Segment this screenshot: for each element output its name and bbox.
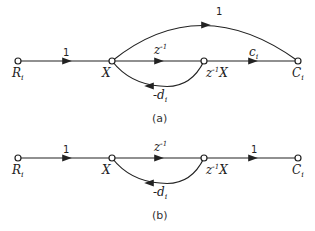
b-node-delayed: z-1X: [206, 164, 228, 176]
b-delay-gain: z-1: [154, 141, 167, 153]
b-feedback-gain: -di: [153, 186, 167, 201]
a-delay-gain: z-1: [154, 44, 167, 56]
a-node-r: Ri: [12, 67, 24, 82]
a-output-gain: ci: [249, 46, 258, 61]
caption-b: (b): [152, 209, 168, 222]
b-node-r: Ri: [12, 164, 24, 179]
a-feedforward-gain: 1: [216, 7, 222, 17]
a-node-x: X: [102, 67, 111, 79]
a-feedback-gain: -di: [153, 89, 167, 104]
b-output-gain: 1: [251, 145, 257, 155]
b-node-c: Ci: [292, 164, 304, 179]
a-node-delayed: z-1X: [206, 67, 228, 79]
b-input-gain: 1: [63, 145, 69, 155]
a-node-c: Ci: [292, 67, 304, 82]
diagram-b-edges: [18, 158, 298, 183]
caption-a: (a): [152, 112, 167, 125]
a-input-gain: 1: [63, 48, 69, 58]
b-node-x: X: [102, 164, 111, 176]
